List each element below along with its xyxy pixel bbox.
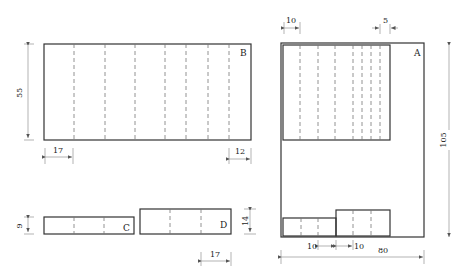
piece-a [281,43,424,237]
piece-b [44,44,251,140]
dim-a-bottom-right-label: 10 [354,242,364,251]
dim-a-top-left-label: 10 [286,16,296,25]
piece-d [140,209,231,234]
dim-a-width-label: 80 [378,246,388,255]
dim-b-height-label: 55 [15,88,24,98]
dim-b-height [24,44,34,140]
dim-a-top-right-label: 5 [383,16,388,25]
dim-d-width-label: 17 [210,250,220,259]
dim-a-height-label: 105 [439,132,448,147]
label-d: D [220,220,227,230]
dim-b-right-label: 12 [235,147,245,156]
dim-a-width [281,250,424,264]
dim-a-top-right [372,24,398,34]
dim-c-height-label: 9 [15,223,24,228]
dim-b-left-label: 17 [53,146,63,155]
diagram-canvas: B 55 17 12 C 9 D [0,0,462,271]
label-b: B [240,48,247,58]
label-c: C [123,223,130,233]
dim-c-height [24,217,34,234]
dim-a-bottom-inner [318,240,353,250]
piece-c [44,217,134,234]
dim-a-bottom-left-label: 10 [307,242,317,251]
dim-d-height-label: 14 [241,216,250,226]
label-a: A [413,48,421,58]
